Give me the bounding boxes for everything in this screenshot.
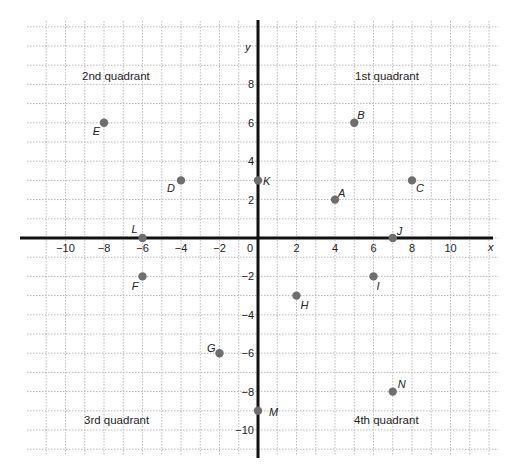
point-label: E (93, 125, 101, 137)
point-marker (369, 272, 377, 280)
quadrant-label-3rd: 3rd quadrant (84, 414, 150, 426)
y-tick-label: −2 (241, 270, 254, 282)
point-marker (389, 387, 397, 395)
y-tick-label: −8 (241, 386, 254, 398)
x-tick-label: 8 (409, 242, 415, 254)
point-marker (177, 176, 185, 184)
x-tick-label: 0 (247, 242, 253, 254)
data-point-b: B (350, 109, 365, 127)
point-label: L (131, 223, 137, 235)
data-point-f: F (132, 272, 147, 292)
point-marker (408, 176, 416, 184)
data-point-e: E (93, 119, 109, 137)
point-label: B (357, 109, 364, 121)
coordinate-plane-chart: −10−8−6−4−20246810−10−8−6−4−22468 2nd qu… (0, 0, 518, 473)
point-marker (138, 234, 146, 242)
point-marker (254, 176, 262, 184)
x-tick-label: 6 (370, 242, 376, 254)
y-tick-label: 8 (248, 78, 254, 90)
x-tick-label: −4 (175, 242, 188, 254)
data-point-i: I (369, 272, 379, 292)
data-point-g: G (207, 342, 224, 357)
x-axis-label: x (487, 241, 494, 253)
point-marker (389, 234, 397, 242)
point-marker (100, 119, 108, 127)
point-label: H (301, 299, 309, 311)
point-label: A (337, 187, 345, 199)
quadrant-label-2nd: 2nd quadrant (82, 70, 151, 82)
x-tick-label: 10 (444, 242, 456, 254)
point-marker (254, 407, 262, 415)
point-label: I (377, 280, 380, 292)
point-marker (215, 349, 223, 357)
y-tick-label: −4 (241, 309, 254, 321)
y-tick-label: 4 (248, 155, 254, 167)
x-tick-label: −10 (56, 242, 75, 254)
y-tick-label: −10 (235, 424, 254, 436)
point-label: F (132, 280, 140, 292)
point-label: G (207, 342, 216, 354)
data-point-a: A (331, 187, 346, 204)
quadrant-label-4th: 4th quadrant (354, 414, 419, 426)
x-tick-label: 4 (332, 242, 338, 254)
data-point-j: J (389, 225, 403, 242)
point-label: K (263, 175, 271, 187)
y-tick-label: 2 (248, 194, 254, 206)
x-tick-label: −2 (213, 242, 226, 254)
point-label: J (396, 225, 403, 237)
y-tick-label: −6 (241, 347, 254, 359)
x-tick-label: 2 (293, 242, 299, 254)
point-marker (292, 291, 300, 299)
data-point-d: D (167, 176, 185, 194)
axes (20, 20, 493, 458)
data-point-c: C (408, 176, 424, 194)
point-label: D (167, 182, 175, 194)
y-axis-label: y (244, 41, 252, 53)
data-point-h: H (292, 291, 308, 310)
data-point-n: N (389, 378, 406, 396)
x-tick-label: −6 (136, 242, 149, 254)
data-point-k: K (254, 175, 271, 187)
x-tick-label: −8 (98, 242, 111, 254)
point-label: C (416, 182, 424, 194)
quadrant-label-1st: 1st quadrant (355, 70, 420, 82)
point-label: N (398, 378, 406, 390)
y-tick-label: 6 (248, 117, 254, 129)
point-label: M (269, 406, 279, 418)
point-marker (138, 272, 146, 280)
